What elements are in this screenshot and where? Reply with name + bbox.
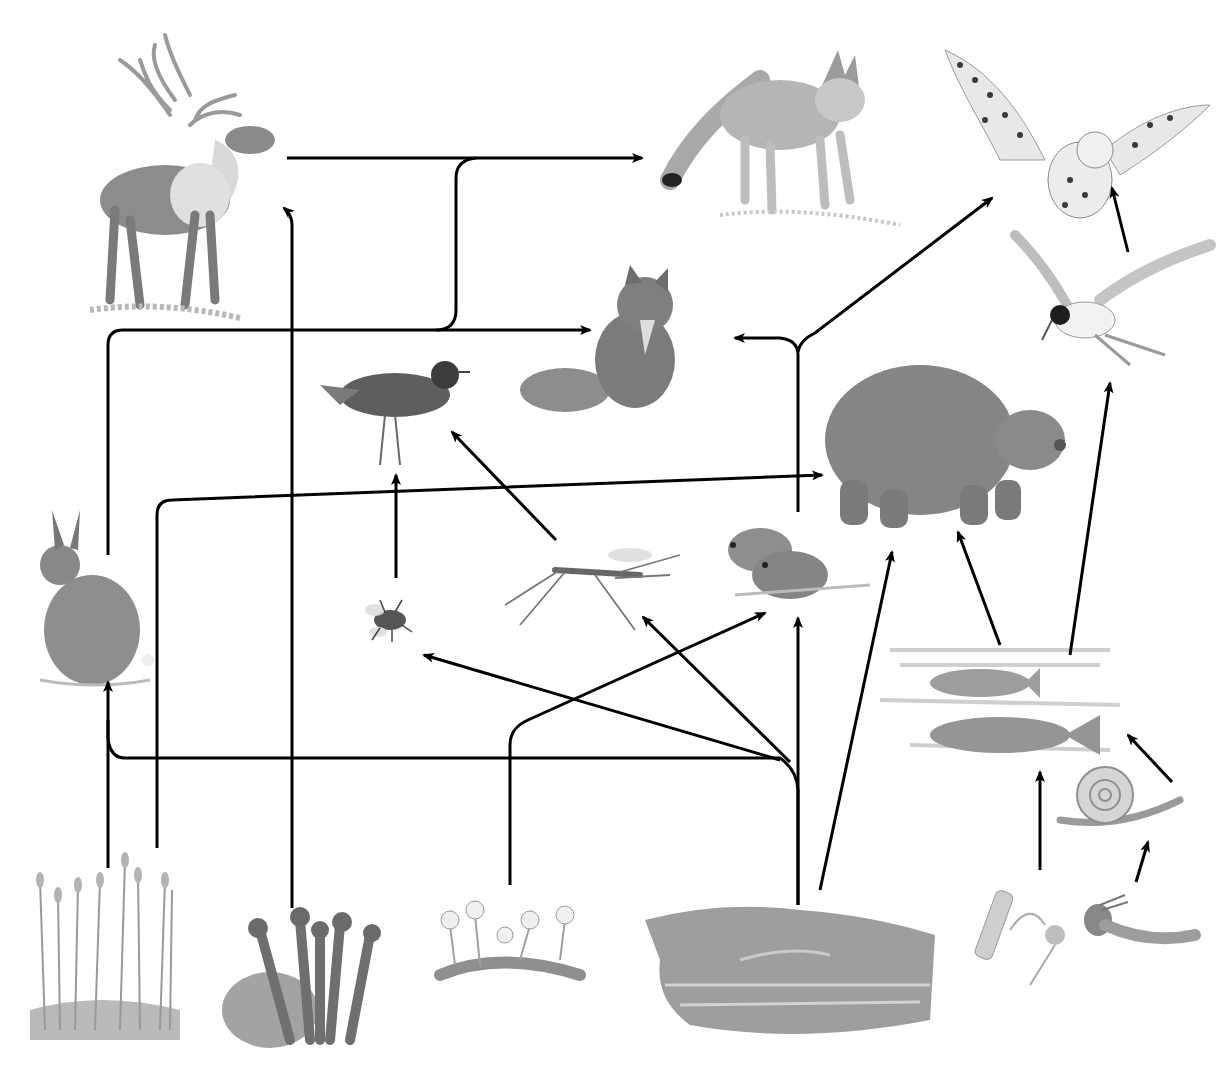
caribou-illustration	[90, 35, 275, 318]
arrow-snail-to-fish	[1128, 735, 1172, 782]
grizzly-bear-illustration	[825, 365, 1066, 528]
fish-illustration	[880, 650, 1120, 755]
insect-larva-illustration	[1084, 895, 1195, 938]
wolf-illustration	[662, 50, 900, 225]
mosquito-illustration	[505, 548, 680, 630]
plankton-illustration	[974, 889, 1065, 985]
feeding-arrows	[108, 158, 1172, 908]
food-web-diagram	[0, 0, 1230, 1075]
snowy-owl-illustration	[945, 50, 1210, 218]
lichens-illustration	[222, 907, 381, 1048]
arrow-hare-to-wolf	[436, 158, 476, 330]
arrow-lichens-to-caribou	[284, 208, 292, 908]
arrow-hare-to-fox	[108, 330, 590, 555]
snail-illustration	[1060, 767, 1180, 823]
arctic-tern-illustration	[1015, 235, 1210, 365]
arctic-hare-illustration	[40, 510, 154, 685]
arrow-lemmings-to-owl	[798, 198, 992, 352]
arctic-fox-illustration	[520, 265, 675, 412]
arrow-grasses-to-bear	[820, 552, 892, 890]
grasses-sedges-illustration	[645, 907, 935, 1034]
mosses-illustration	[30, 852, 180, 1040]
arrow-mosses-to-bear	[157, 475, 822, 848]
arrow-lemmings-to-fox	[735, 338, 798, 512]
arrow-grasses-to-hare	[108, 720, 798, 905]
arrow-fish-to-tern	[1070, 383, 1110, 655]
arrow-larva-to-snail	[1136, 842, 1148, 882]
arrow-grasses-to-fly	[424, 655, 780, 760]
fly-illustration	[365, 600, 412, 642]
plover-illustration	[320, 361, 470, 465]
arrow-tern-to-owl	[1112, 188, 1128, 252]
flowers-illustration	[440, 901, 580, 975]
lemmings-illustration	[728, 528, 870, 599]
arrow-flowers-to-lemmings	[510, 613, 765, 885]
arrow-fish-to-bear	[958, 532, 1000, 645]
